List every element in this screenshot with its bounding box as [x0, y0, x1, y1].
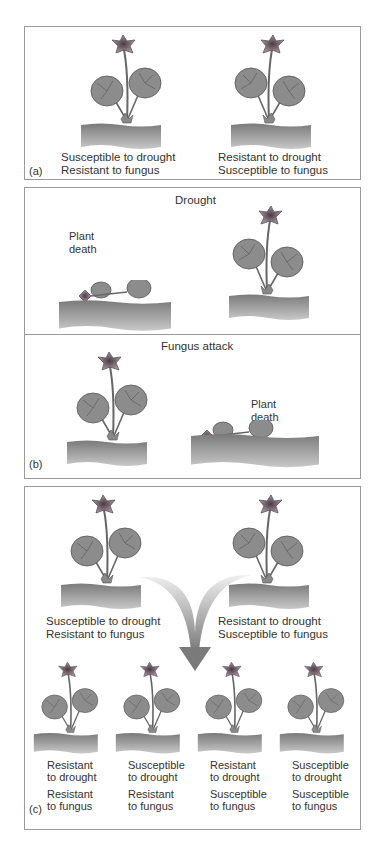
panel-b-divider: [25, 334, 360, 335]
surviving-plant-drought: [223, 202, 323, 332]
plant-drought-resistant: [225, 31, 325, 161]
offspring-1-fungus-2: to fungus: [47, 800, 92, 813]
offspring-plant-3: [193, 651, 273, 771]
panel-c-label: (c): [29, 803, 42, 815]
panel-c: Susceptible to drought Resistant to fung…: [24, 486, 361, 830]
offspring-3-drought-2: to drought: [210, 771, 260, 784]
plant-a1-trait1: Susceptible to drought: [61, 151, 175, 164]
offspring-1-drought-2: to drought: [47, 771, 97, 784]
offspring-4-drought-2: to drought: [292, 771, 342, 784]
plant-drought-susceptible: [75, 31, 175, 161]
dead-plant-fungus: [191, 420, 321, 480]
offspring-4-fungus-2: to fungus: [292, 800, 337, 813]
fungus-death-label-1: Plant: [251, 398, 276, 411]
offspring-2-fungus-2: to fungus: [128, 800, 173, 813]
drought-death-label-1: Plant: [69, 230, 94, 243]
offspring-plant-2: [111, 651, 191, 771]
offspring-2-drought-2: to drought: [128, 771, 178, 784]
parent-1-trait1: Susceptible to drought: [46, 615, 160, 628]
panel-b-label: (b): [29, 458, 42, 470]
drought-title: Drought: [175, 194, 216, 207]
plant-a1-trait2: Resistant to fungus: [61, 164, 159, 177]
fungus-title: Fungus attack: [161, 340, 233, 353]
panel-b: Drought Plant death Fungus attack Plant …: [24, 187, 361, 479]
drought-death-label-2: death: [69, 243, 97, 256]
panel-a-label: (a): [29, 165, 42, 177]
offspring-plant-1: [29, 651, 109, 771]
offspring-3-fungus-2: to fungus: [210, 800, 255, 813]
plant-a2-trait2: Susceptible to fungus: [218, 164, 328, 177]
parent-2-trait2: Susceptible to fungus: [218, 628, 328, 641]
surviving-plant-fungus: [61, 348, 161, 478]
parent-2-trait1: Resistant to drought: [218, 615, 321, 628]
plant-a2-trait1: Resistant to drought: [218, 151, 321, 164]
offspring-plant-4: [275, 651, 355, 771]
parent-1-trait2: Resistant to fungus: [46, 628, 144, 641]
panel-a: Susceptible to drought Resistant to fung…: [24, 26, 361, 180]
dead-plant-drought: [59, 280, 179, 340]
